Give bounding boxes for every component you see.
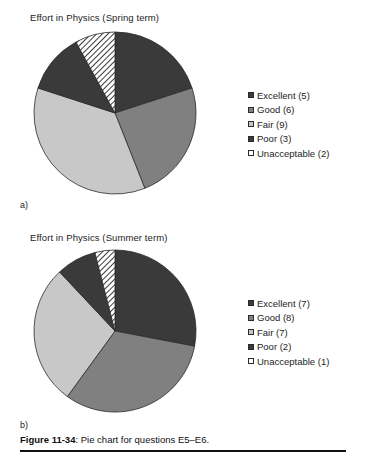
legend-swatch-fair-icon (248, 329, 254, 335)
pie-a-slice-group (34, 32, 196, 194)
legend-item: Fair (7) (248, 325, 329, 340)
legend-label: Poor (2) (257, 341, 291, 352)
legend-item: Fair (9) (248, 117, 329, 132)
legend-swatch-excellent-icon (248, 300, 254, 306)
pie-svg-a (32, 30, 198, 196)
legend-swatch-unacceptable-icon (248, 358, 254, 364)
panel-letter-b: b) (20, 420, 28, 430)
pie-chart-b (32, 248, 198, 414)
legend-swatch-good-icon (248, 107, 254, 113)
legend-label: Unacceptable (1) (257, 356, 329, 367)
legend-label: Unacceptable (2) (257, 148, 329, 159)
legend-label: Fair (9) (257, 119, 288, 130)
legend-b: Excellent (7) Good (8) Fair (7) Poor (2)… (248, 296, 329, 369)
figure-caption-label: Figure 11-34 (20, 434, 75, 445)
legend-label: Fair (7) (257, 327, 288, 338)
legend-swatch-unacceptable-icon (248, 150, 254, 156)
legend-swatch-good-icon (248, 315, 254, 321)
legend-label: Good (8) (257, 312, 295, 323)
figure-page: Effort in Physics (Spring term) Excellen… (0, 0, 368, 462)
figure-panel-b: Effort in Physics (Summer term) Excellen… (0, 224, 368, 428)
legend-label: Good (6) (257, 104, 295, 115)
caption-divider (20, 450, 346, 452)
legend-item: Unacceptable (1) (248, 354, 329, 369)
legend-item: Excellent (5) (248, 88, 329, 103)
legend-item: Good (6) (248, 103, 329, 118)
figure-panel-a: Effort in Physics (Spring term) Excellen… (0, 4, 368, 226)
legend-label: Excellent (7) (257, 298, 310, 309)
pie-svg-b (32, 248, 198, 414)
pie-slice-excellent (115, 250, 196, 346)
figure-caption-text: : Pie chart for questions E5–E6. (75, 434, 209, 445)
panel-letter-a: a) (20, 200, 28, 210)
legend-a: Excellent (5) Good (6) Fair (9) Poor (3)… (248, 88, 329, 161)
legend-item: Poor (2) (248, 340, 329, 355)
chart-title-a: Effort in Physics (Spring term) (30, 12, 159, 23)
legend-swatch-excellent-icon (248, 92, 254, 98)
pie-chart-a (32, 30, 198, 196)
legend-swatch-poor-icon (248, 136, 254, 142)
pie-b-slice-group (34, 250, 196, 412)
legend-swatch-poor-icon (248, 344, 254, 350)
legend-item: Unacceptable (2) (248, 146, 329, 161)
figure-caption: Figure 11-34: Pie chart for questions E5… (20, 434, 350, 445)
legend-item: Good (8) (248, 311, 329, 326)
legend-label: Excellent (5) (257, 90, 310, 101)
chart-title-b: Effort in Physics (Summer term) (30, 232, 168, 243)
legend-item: Excellent (7) (248, 296, 329, 311)
legend-swatch-fair-icon (248, 121, 254, 127)
legend-item: Poor (3) (248, 132, 329, 147)
legend-label: Poor (3) (257, 133, 291, 144)
